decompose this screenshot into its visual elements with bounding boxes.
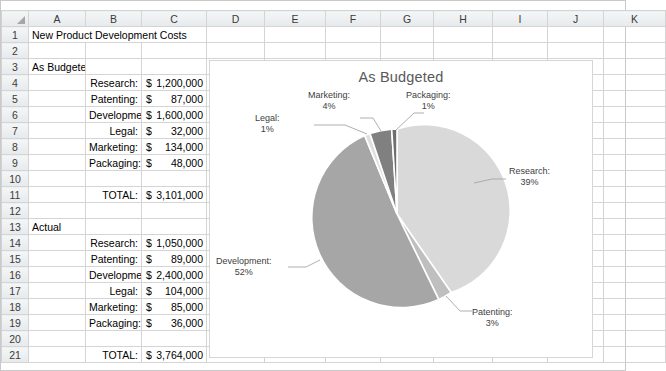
cell-c18-amount[interactable]: $85,000 [142, 299, 207, 315]
cell-k10[interactable] [604, 171, 666, 187]
row-header-1[interactable]: 1 [2, 27, 29, 43]
cell-k20[interactable] [604, 331, 666, 347]
row-header-11[interactable]: 11 [2, 187, 29, 203]
cell-k16[interactable] [604, 267, 666, 283]
cell-c12[interactable] [142, 203, 207, 219]
cell-i2[interactable] [493, 43, 548, 59]
cell-b17-label[interactable]: Legal: [86, 283, 142, 299]
row-header-14[interactable]: 14 [2, 235, 29, 251]
cell-c9-amount[interactable]: $48,000 [142, 155, 207, 171]
cell-a20[interactable] [29, 331, 86, 347]
cell-b10[interactable] [86, 171, 142, 187]
row-header-16[interactable]: 16 [2, 267, 29, 283]
cell-k6[interactable] [604, 107, 666, 123]
cell-a12[interactable] [29, 203, 86, 219]
cell-b21-total-label[interactable]: TOTAL: [86, 347, 142, 363]
row-header-18[interactable]: 18 [2, 299, 29, 315]
cell-k2[interactable] [604, 43, 666, 59]
select-all-corner[interactable] [2, 11, 29, 27]
cell-h2[interactable] [434, 43, 493, 59]
cell-k9[interactable] [604, 155, 666, 171]
column-header-k[interactable]: K [604, 11, 666, 27]
row-header-6[interactable]: 6 [2, 107, 29, 123]
row-header-19[interactable]: 19 [2, 315, 29, 331]
cell-a7[interactable] [29, 123, 86, 139]
cell-c5-amount[interactable]: $87,000 [142, 91, 207, 107]
cell-k5[interactable] [604, 91, 666, 107]
row-header-21[interactable]: 21 [2, 347, 29, 363]
cell-a16[interactable] [29, 267, 86, 283]
cell-d2[interactable] [207, 43, 265, 59]
cell-e1[interactable] [265, 27, 326, 43]
cell-b7-label[interactable]: Legal: [86, 123, 142, 139]
cell-b14-label[interactable]: Research: [86, 235, 142, 251]
cell-a17[interactable] [29, 283, 86, 299]
cell-b12[interactable] [86, 203, 142, 219]
cell-k17[interactable] [604, 283, 666, 299]
table-row[interactable]: 1 New Product Development Costs [2, 27, 666, 43]
cell-k4[interactable] [604, 75, 666, 91]
cell-b20[interactable] [86, 331, 142, 347]
cell-b16-label[interactable]: Development: [86, 267, 142, 283]
cell-i1[interactable] [493, 27, 548, 43]
cell-b2[interactable] [86, 43, 142, 59]
cell-j2[interactable] [548, 43, 604, 59]
cell-c7-amount[interactable]: $32,000 [142, 123, 207, 139]
cell-a1-title[interactable]: New Product Development Costs [29, 27, 207, 43]
cell-k11[interactable] [604, 187, 666, 203]
cell-a19[interactable] [29, 315, 86, 331]
column-header-e[interactable]: E [265, 11, 326, 27]
cell-a9[interactable] [29, 155, 86, 171]
column-header-i[interactable]: I [493, 11, 548, 27]
table-row[interactable]: 2 [2, 43, 666, 59]
cell-c13[interactable] [142, 219, 207, 235]
row-header-15[interactable]: 15 [2, 251, 29, 267]
cell-a6[interactable] [29, 107, 86, 123]
column-header-h[interactable]: H [434, 11, 493, 27]
column-header-j[interactable]: J [548, 11, 604, 27]
cell-c4-amount[interactable]: $1,200,000 [142, 75, 207, 91]
cell-k8[interactable] [604, 139, 666, 155]
cell-c14-amount[interactable]: $1,050,000 [142, 235, 207, 251]
cell-a10[interactable] [29, 171, 86, 187]
cell-c8-amount[interactable]: $134,000 [142, 139, 207, 155]
cell-a3-section-budgeted[interactable]: As Budgeted [29, 59, 86, 75]
column-header-c[interactable]: C [142, 11, 207, 27]
cell-b6-label[interactable]: Development: [86, 107, 142, 123]
cell-k12[interactable] [604, 203, 666, 219]
cell-a2[interactable] [29, 43, 86, 59]
cell-b19-label[interactable]: Packaging: [86, 315, 142, 331]
cell-h1[interactable] [434, 27, 493, 43]
cell-k14[interactable] [604, 235, 666, 251]
cell-k13[interactable] [604, 219, 666, 235]
row-header-12[interactable]: 12 [2, 203, 29, 219]
cell-b15-label[interactable]: Patenting: [86, 251, 142, 267]
cell-c19-amount[interactable]: $36,000 [142, 315, 207, 331]
cell-d1[interactable] [207, 27, 265, 43]
cell-a13-section-actual[interactable]: Actual [29, 219, 86, 235]
cell-e2[interactable] [265, 43, 326, 59]
column-header-g[interactable]: G [381, 11, 434, 27]
column-header-d[interactable]: D [207, 11, 265, 27]
row-header-10[interactable]: 10 [2, 171, 29, 187]
row-header-20[interactable]: 20 [2, 331, 29, 347]
cell-c6-amount[interactable]: $1,600,000 [142, 107, 207, 123]
cell-g1[interactable] [381, 27, 434, 43]
cell-f1[interactable] [326, 27, 381, 43]
row-header-17[interactable]: 17 [2, 283, 29, 299]
column-header-b[interactable]: B [86, 11, 142, 27]
cell-a5[interactable] [29, 91, 86, 107]
row-header-5[interactable]: 5 [2, 91, 29, 107]
cell-k19[interactable] [604, 315, 666, 331]
column-header-a[interactable]: A [29, 11, 86, 27]
row-header-3[interactable]: 3 [2, 59, 29, 75]
cell-c21-actual-total[interactable]: $3,764,000 [142, 347, 207, 363]
cell-f2[interactable] [326, 43, 381, 59]
cell-j1[interactable] [548, 27, 604, 43]
cell-c2[interactable] [142, 43, 207, 59]
cell-b18-label[interactable]: Marketing: [86, 299, 142, 315]
cell-b13[interactable] [86, 219, 142, 235]
cell-b5-label[interactable]: Patenting: [86, 91, 142, 107]
cell-b4-label[interactable]: Research: [86, 75, 142, 91]
row-header-9[interactable]: 9 [2, 155, 29, 171]
